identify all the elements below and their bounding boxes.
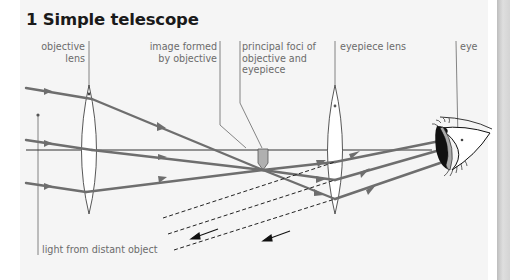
- telescope-diagram: [0, 0, 510, 280]
- dashed-rays: [163, 162, 335, 250]
- direction-arrows: [191, 229, 290, 241]
- eyepiece-lens-icon: [328, 85, 343, 214]
- image-arrow-icon: [258, 149, 268, 170]
- eye-icon: [432, 117, 492, 176]
- source-point-icon: [36, 113, 39, 116]
- leader-lines: [38, 41, 458, 255]
